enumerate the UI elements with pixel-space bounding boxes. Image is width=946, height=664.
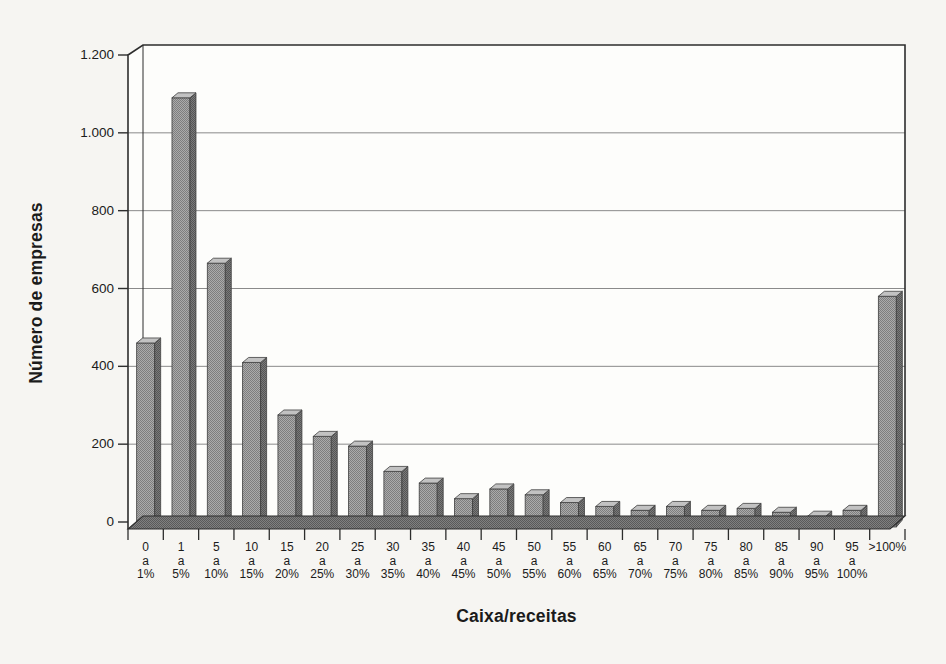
plot-area: [0, 0, 946, 664]
bar-front-face: [278, 415, 296, 527]
bar-side-face: [896, 291, 902, 527]
bar: [137, 338, 161, 527]
bar-front-face: [207, 263, 225, 527]
bar-side-face: [225, 258, 231, 527]
bar: [207, 258, 231, 527]
bar-front-face: [349, 446, 367, 527]
bar-front-face: [878, 296, 896, 527]
bar-side-face: [296, 410, 302, 527]
bar: [313, 431, 337, 527]
chart-floor: [128, 516, 905, 529]
bar-front-face: [243, 362, 261, 527]
bar-side-face: [367, 441, 373, 527]
bar-side-face: [261, 357, 267, 527]
bar-front-face: [313, 436, 331, 527]
bar: [278, 410, 302, 527]
bar-side-face: [331, 431, 337, 527]
bar: [243, 357, 267, 527]
bar: [349, 441, 373, 527]
bar-side-face: [190, 93, 196, 527]
bar: [172, 93, 196, 527]
x-axis-title: Caixa/receitas: [128, 606, 905, 627]
bar-front-face: [172, 98, 190, 527]
figure-bar-chart: Número de empresas 02004006008001.0001.2…: [0, 0, 946, 664]
bar: [878, 291, 902, 527]
bar-front-face: [137, 343, 155, 527]
bar-side-face: [155, 338, 161, 527]
